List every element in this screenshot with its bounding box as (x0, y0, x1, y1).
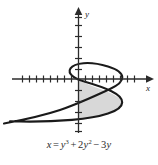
equation-plus: + (69, 139, 78, 150)
x-axis-label: x (145, 83, 150, 93)
equation-minus: − (92, 139, 101, 150)
graph-plot: x y (0, 0, 158, 140)
equation-caption: x=y3+2y2−3y (0, 139, 158, 150)
y-axis-arrowhead (75, 7, 83, 15)
equation-equals: = (52, 139, 61, 150)
x-axis-arrowhead (146, 75, 154, 83)
equation-lhs: x (47, 139, 52, 150)
y-axis-label: y (84, 9, 89, 19)
figure-container: x y x=y3+2y2−3y (0, 0, 158, 165)
equation-term3-base: y (106, 139, 111, 150)
